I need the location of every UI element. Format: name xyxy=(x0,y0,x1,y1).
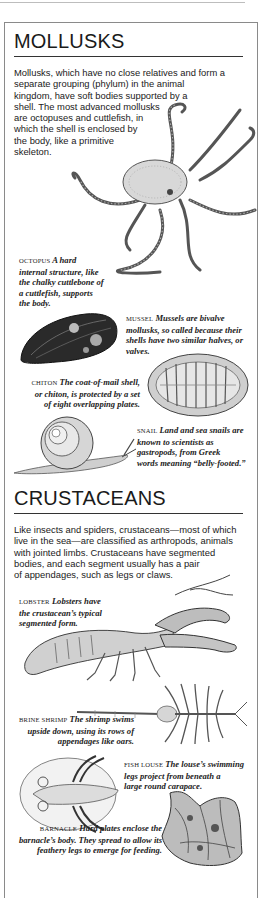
caption-brine-shrimp: BRINE SHRIMP The shrimp swims upside dow… xyxy=(14,714,134,747)
heading-rule xyxy=(14,56,243,57)
section-heading-crustaceans: CRUSTACEANS xyxy=(14,487,166,510)
snail-illustration xyxy=(12,415,137,475)
caption-chiton: CHITON The coat-of-mail shell, or chiton… xyxy=(20,377,140,410)
heading-rule xyxy=(14,513,243,514)
mussel-illustration xyxy=(16,310,121,365)
chiton-illustration xyxy=(146,352,250,418)
caption-fish-louse: FISH LOUSE The louse’s swimming legs pro… xyxy=(124,759,244,792)
caption-mussel: MUSSEL Mussels are bivalve mollusks, so … xyxy=(126,313,243,356)
caption-octopus: OCTOPUS A hard internal structure, like … xyxy=(19,255,104,309)
caption-lobster: LOBSTER Lobsters have the crustacean’s t… xyxy=(19,596,102,629)
caption-snail: SNAIL Land and sea snails are known to s… xyxy=(137,425,246,468)
barnacle-illustration xyxy=(160,788,245,870)
top-divider xyxy=(0,2,245,3)
caption-barnacle: BARNACLE Hard plates enclose the barnacl… xyxy=(18,823,162,856)
section-heading-mollusks: MOLLUSKS xyxy=(14,30,125,53)
